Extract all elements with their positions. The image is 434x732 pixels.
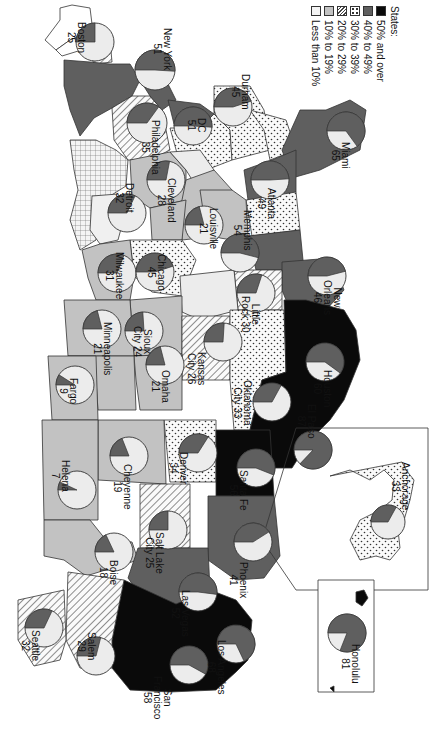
city-label: New York51 [152, 28, 172, 70]
city-name: Denver [178, 452, 188, 484]
city-value: 87 [296, 404, 306, 438]
city-label: Cleveland28 [156, 178, 176, 222]
city-name: Milwaukee [114, 252, 124, 299]
city-name: Oklahoma [242, 380, 252, 426]
city-value: 29 [76, 632, 86, 660]
city-value: 31 [104, 252, 114, 299]
city-value: 25 [66, 22, 76, 53]
city-value: 7 [50, 460, 60, 492]
legend-item-40-to-49: 40% to 49% [362, 6, 373, 74]
city-value: 51 [152, 28, 162, 70]
city-label: Louisville21 [198, 208, 218, 249]
city-label: Santa Fe56 [228, 470, 248, 511]
dots-swatch-icon [350, 6, 360, 16]
city-name: Salem [86, 632, 96, 660]
legend-title: States: [389, 6, 400, 37]
city-pie [170, 646, 208, 684]
city-label: Las Vegas52 [170, 590, 190, 637]
city-label: Boston25 [66, 22, 86, 53]
city-value: 49 [256, 188, 266, 219]
city-label: Omaha21 [150, 370, 170, 403]
city-label: NewOrleans46 [312, 280, 342, 315]
city-name: New [332, 280, 342, 315]
city-name: Kansas [196, 352, 206, 385]
city-value: 21 [150, 370, 160, 403]
city-label: Cheyenne19 [112, 464, 132, 510]
city-pie [204, 323, 242, 361]
city-label: Los Angeles68 [206, 640, 226, 695]
legend-item-30-to-39: 30% to 39% [349, 6, 360, 74]
city-name: Minneapolis [102, 322, 112, 375]
city-value: 81 [340, 644, 350, 683]
city-name: Houston [322, 370, 332, 407]
us-map [0, 0, 434, 732]
city-label: Seattle32 [20, 630, 40, 661]
city-value: 32 [20, 630, 30, 661]
city-name: Honolulu [350, 644, 360, 683]
city-label: Memphis54 [232, 210, 252, 251]
city-name: New York [162, 28, 172, 70]
city-name: Boston [76, 22, 86, 53]
city-value: 33 [390, 462, 400, 510]
legend-item-50-and-over: 50% and over [375, 6, 386, 82]
city-label: Fargo9 [58, 378, 78, 404]
city-value: 60 [312, 370, 322, 407]
city-label: Salem29 [76, 632, 96, 660]
city-name: Francisco [152, 676, 162, 719]
city-value: 19 [112, 464, 122, 510]
city-label: DC51 [186, 118, 206, 132]
city-name: Miami [340, 142, 350, 169]
city-name: San [162, 676, 172, 719]
city-name: Omaha [160, 370, 170, 403]
legend-item-10-to-19: 10% to 19% [323, 6, 334, 74]
city-label: Chicago45 [146, 254, 166, 291]
city-name: Cleveland [166, 178, 176, 222]
city-value: 51 [186, 118, 196, 132]
city-label: Salt LakeCity 25 [144, 532, 164, 574]
city-name: Boise [108, 560, 118, 585]
state-missouri [180, 270, 238, 320]
city-label: Denver34 [168, 452, 188, 484]
city-value: 32 [114, 183, 124, 212]
city-name: Las Vegas [180, 590, 190, 637]
city-name: Anchorage [400, 462, 410, 510]
city-label: SanFrancisco58 [142, 676, 172, 719]
city-value: City 33 [232, 380, 242, 426]
city-name: Los Angeles [216, 640, 226, 695]
city-value: 52 [170, 590, 180, 637]
city-pie [253, 383, 291, 421]
city-label: Anchorage33 [390, 462, 410, 510]
city-label: Phoenix41 [228, 562, 248, 598]
city-label: Durham45 [230, 74, 250, 110]
city-pie [234, 523, 272, 561]
city-value: City 25 [144, 532, 154, 574]
city-value: 45 [230, 74, 240, 110]
city-name: Fargo [68, 378, 78, 404]
city-name: Seattle [30, 630, 40, 661]
city-value: City 24 [132, 326, 142, 357]
city-value: 56 [228, 470, 238, 511]
legend-item-less-than-10: Less than 10% [310, 6, 321, 86]
city-value: 35 [140, 120, 150, 175]
black-swatch-icon [376, 6, 386, 16]
city-value: 9 [58, 378, 68, 404]
city-value: 45 [146, 254, 156, 291]
city-name: Chicago [156, 254, 166, 291]
dark-gray-swatch-icon [363, 6, 373, 16]
city-name: Philadelphia [150, 120, 160, 175]
legend-item-20-to-29: 20% to 29% [336, 6, 347, 74]
city-label: Atlanta49 [256, 188, 276, 219]
city-label: El Paso87 [296, 404, 316, 438]
city-label: Philadelphia35 [140, 120, 160, 175]
city-name: Cheyenne [122, 464, 132, 510]
city-value: City 26 [186, 352, 196, 385]
city-label: OklahomaCity 33 [232, 380, 252, 426]
city-name: El Paso [306, 404, 316, 438]
city-value: 68 [206, 640, 216, 695]
city-name: Louisville [208, 208, 218, 249]
city-name: Atlanta [266, 188, 276, 219]
city-value: 58 [142, 676, 152, 719]
city-name: Helena [60, 460, 70, 492]
city-value: 41 [228, 562, 238, 598]
light-gray-swatch-icon [324, 6, 334, 16]
